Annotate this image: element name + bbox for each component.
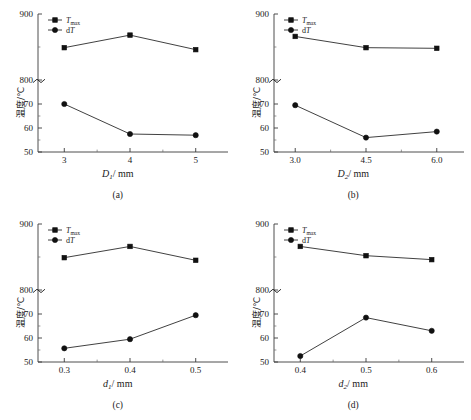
legend-marker-dt — [52, 27, 57, 32]
series-line-dt — [64, 315, 195, 348]
legend-label-tmax: Tmax — [302, 16, 316, 26]
legend-marker-tmax — [288, 18, 293, 23]
data-point-tmax — [193, 258, 198, 263]
data-point-dt — [193, 133, 198, 138]
x-tick-label: 0.6 — [426, 365, 438, 375]
x-tick-label: 4 — [128, 155, 133, 165]
x-axis-label-unit: / mm — [113, 168, 134, 179]
y-axis-label: 温度/℃ — [14, 87, 27, 118]
data-point-dt — [429, 328, 434, 333]
data-point-tmax — [128, 244, 133, 249]
panel-caption: (b) — [236, 190, 471, 200]
series-line-dt — [295, 105, 437, 137]
data-point-dt — [193, 313, 198, 318]
y-axis-label: 温度/℃ — [14, 297, 27, 328]
data-point-tmax — [62, 45, 67, 50]
y-axis-label: 温度/℃ — [250, 87, 263, 118]
x-tick-label: 0.4 — [294, 365, 306, 375]
panel-caption: (a) — [0, 190, 236, 200]
legend-marker-dt — [288, 27, 293, 32]
y-tick-label: 800 — [20, 285, 34, 295]
y-tick-label: 800 — [20, 75, 34, 85]
x-axis-label-unit: / mm — [348, 168, 369, 179]
x-axis-label-unit: / mm — [112, 378, 133, 389]
x-tick-label: 3 — [62, 155, 67, 165]
legend-marker-dt — [288, 237, 293, 242]
x-tick-label: 0.5 — [360, 365, 372, 375]
panel-b: 9008007060503.04.56.0TmaxdT 温度/℃ D2/ mm … — [236, 0, 471, 210]
panel-c: 9008007060500.30.40.5TmaxdT 温度/℃ d1/ mm … — [0, 210, 236, 420]
data-point-tmax — [434, 46, 439, 51]
y-tick-label: 50 — [24, 147, 34, 157]
y-tick-label: 60 — [24, 333, 34, 343]
y-tick-label: 50 — [260, 147, 270, 157]
data-point-dt — [62, 101, 67, 106]
x-tick-label: 0.3 — [59, 365, 71, 375]
data-point-tmax — [62, 255, 67, 260]
data-point-dt — [434, 129, 439, 134]
legend-marker-tmax — [53, 18, 58, 23]
x-tick-label: 0.4 — [124, 365, 136, 375]
panel-d: 9008007060500.40.50.6TmaxdT 温度/℃ d2/ mm … — [236, 210, 471, 420]
legend-label-dt: dT — [66, 236, 75, 245]
legend-marker-tmax — [53, 228, 58, 233]
y-tick-label: 50 — [260, 357, 270, 367]
data-point-dt — [127, 131, 132, 136]
legend-label-dt: dT — [66, 26, 75, 35]
legend-label-tmax: Tmax — [66, 16, 80, 26]
data-point-dt — [363, 135, 368, 140]
data-point-tmax — [429, 257, 434, 262]
x-axis-label: d1/ mm — [0, 378, 236, 391]
series-line-dt — [300, 318, 431, 356]
y-tick-label: 900 — [20, 219, 34, 229]
data-point-tmax — [363, 45, 368, 50]
y-tick-label: 60 — [24, 123, 34, 133]
x-axis-label: d2/ mm — [236, 378, 471, 391]
x-axis-label: D1/ mm — [0, 168, 236, 181]
y-tick-label: 50 — [24, 357, 34, 367]
x-axis-label-main: D — [337, 168, 344, 179]
x-axis-label-unit: / mm — [347, 378, 368, 389]
x-tick-label: 4.5 — [360, 155, 372, 165]
data-point-tmax — [128, 33, 133, 38]
data-point-dt — [297, 353, 302, 358]
data-point-tmax — [292, 34, 297, 39]
x-tick-label: 5 — [193, 155, 198, 165]
x-axis-label: D2/ mm — [236, 168, 471, 181]
y-axis-label: 温度/℃ — [250, 297, 263, 328]
legend-marker-dt — [52, 237, 57, 242]
legend-label-tmax: Tmax — [66, 226, 80, 236]
legend-marker-tmax — [288, 228, 293, 233]
panel-caption: (d) — [236, 400, 471, 410]
data-point-dt — [127, 337, 132, 342]
x-tick-label: 6.0 — [431, 155, 443, 165]
legend-label-tmax: Tmax — [302, 226, 316, 236]
data-point-tmax — [363, 253, 368, 258]
x-tick-label: 0.5 — [190, 365, 202, 375]
legend-label-dt: dT — [302, 236, 311, 245]
y-tick-label: 900 — [255, 9, 269, 19]
y-tick-label: 900 — [20, 9, 34, 19]
data-point-dt — [62, 346, 67, 351]
figure-four-panel-line-charts: 900800706050345TmaxdT 温度/℃ D1/ mm (a) 90… — [0, 0, 471, 420]
legend-label-dt: dT — [302, 26, 311, 35]
y-tick-label: 60 — [260, 123, 270, 133]
data-point-tmax — [193, 47, 198, 52]
data-point-dt — [292, 103, 297, 108]
y-tick-label: 800 — [255, 75, 269, 85]
panel-caption: (c) — [0, 400, 236, 410]
y-tick-label: 900 — [255, 219, 269, 229]
y-tick-label: 800 — [255, 285, 269, 295]
data-point-dt — [363, 315, 368, 320]
panel-a: 900800706050345TmaxdT 温度/℃ D1/ mm (a) — [0, 0, 236, 210]
x-tick-label: 3.0 — [289, 155, 301, 165]
y-tick-label: 60 — [260, 333, 270, 343]
series-line-dt — [64, 104, 195, 135]
